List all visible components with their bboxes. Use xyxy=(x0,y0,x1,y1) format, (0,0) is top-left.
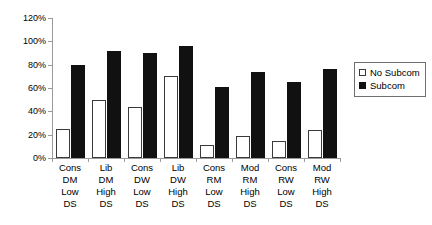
x-label-line: Low xyxy=(52,186,88,198)
x-tick-mark xyxy=(340,158,341,162)
x-label-line: RW xyxy=(304,174,340,186)
x-tick-mark xyxy=(268,158,269,162)
y-axis-tick-label: 40% xyxy=(28,107,46,116)
bar-group xyxy=(232,18,268,158)
y-axis-tick-label: 100% xyxy=(23,37,46,46)
bar-group xyxy=(88,18,124,158)
x-label-line: DS xyxy=(304,198,340,210)
bar-no-subcom xyxy=(92,100,106,158)
y-axis-tick-label: 120% xyxy=(23,14,46,23)
bar-group xyxy=(124,18,160,158)
bar-subcom xyxy=(107,51,121,158)
x-label-line: High xyxy=(160,186,196,198)
x-label-line: DS xyxy=(268,198,304,210)
x-tick-mark xyxy=(196,158,197,162)
x-tick-mark xyxy=(52,158,53,162)
x-axis-category-label: ModRWHighDS xyxy=(304,162,340,210)
x-label-line: DW xyxy=(160,174,196,186)
x-label-line: Mod xyxy=(232,162,268,174)
bar-subcom xyxy=(179,46,193,158)
x-axis-category-label: ConsRWLowDS xyxy=(268,162,304,210)
bar-no-subcom xyxy=(308,130,322,158)
y-axis-tick-label: 20% xyxy=(28,130,46,139)
chart-legend: No Subcom Subcom xyxy=(354,62,426,97)
bar-no-subcom xyxy=(272,141,286,159)
x-label-line: RM xyxy=(232,174,268,186)
x-label-line: DM xyxy=(52,174,88,186)
white-square-swatch-icon xyxy=(359,69,366,76)
x-axis-category-label: ConsDMLowDS xyxy=(52,162,88,210)
x-label-line: DS xyxy=(196,198,232,210)
x-label-line: DS xyxy=(88,198,124,210)
x-label-line: Cons xyxy=(52,162,88,174)
x-label-line: Mod xyxy=(304,162,340,174)
bar-group xyxy=(196,18,232,158)
x-label-line: Cons xyxy=(196,162,232,174)
x-label-line: DW xyxy=(124,174,160,186)
x-label-line: DS xyxy=(52,198,88,210)
x-tick-mark xyxy=(124,158,125,162)
x-label-line: DS xyxy=(124,198,160,210)
x-label-line: Low xyxy=(268,186,304,198)
x-axis-category-label: LibDWHighDS xyxy=(160,162,196,210)
x-axis-category-label: ConsRMLowDS xyxy=(196,162,232,210)
x-tick-mark xyxy=(304,158,305,162)
y-axis-tick-label: 60% xyxy=(28,84,46,93)
bar-no-subcom xyxy=(164,76,178,158)
bar-subcom xyxy=(215,87,229,158)
x-label-line: Cons xyxy=(268,162,304,174)
x-tick-mark xyxy=(232,158,233,162)
bar-subcom xyxy=(143,53,157,158)
bar-group xyxy=(52,18,88,158)
bar-no-subcom xyxy=(236,136,250,158)
x-label-line: RM xyxy=(196,174,232,186)
black-square-swatch-icon xyxy=(359,82,366,89)
x-axis-category-labels: ConsDMLowDSLibDMHighDSConsDWLowDSLibDWHi… xyxy=(52,162,340,222)
y-axis-tick-label: 80% xyxy=(28,60,46,69)
x-label-line: Lib xyxy=(88,162,124,174)
bar-subcom xyxy=(71,65,85,158)
x-tick-mark xyxy=(88,158,89,162)
x-axis-category-label: ConsDWLowDS xyxy=(124,162,160,210)
x-label-line: DM xyxy=(88,174,124,186)
bar-subcom xyxy=(323,69,337,158)
x-label-line: High xyxy=(304,186,340,198)
x-label-line: Low xyxy=(196,186,232,198)
plot-area: 0%20%40%60%80%100%120% xyxy=(52,18,340,158)
x-tick-mark xyxy=(160,158,161,162)
x-label-line: DS xyxy=(232,198,268,210)
x-label-line: Cons xyxy=(124,162,160,174)
x-axis-category-label: LibDMHighDS xyxy=(88,162,124,210)
x-label-line: Low xyxy=(124,186,160,198)
x-axis-category-label: ModRMHighDS xyxy=(232,162,268,210)
bar-no-subcom xyxy=(56,129,70,158)
y-axis-tick-label: 0% xyxy=(33,154,46,163)
x-label-line: DS xyxy=(160,198,196,210)
bar-group xyxy=(304,18,340,158)
x-label-line: High xyxy=(88,186,124,198)
x-label-line: High xyxy=(232,186,268,198)
bar-subcom xyxy=(287,82,301,158)
legend-item-subcom: Subcom xyxy=(359,79,420,92)
x-label-line: RW xyxy=(268,174,304,186)
legend-item-no-subcom: No Subcom xyxy=(359,66,420,79)
x-label-line: Lib xyxy=(160,162,196,174)
bar-group xyxy=(268,18,304,158)
bar-no-subcom xyxy=(128,107,142,158)
bar-group xyxy=(160,18,196,158)
legend-label-subcom: Subcom xyxy=(370,79,405,92)
bar-no-subcom xyxy=(200,145,214,158)
bar-chart: 0%20%40%60%80%100%120% ConsDMLowDSLibDMH… xyxy=(0,0,432,225)
legend-label-no-subcom: No Subcom xyxy=(370,66,420,79)
bar-subcom xyxy=(251,72,265,158)
